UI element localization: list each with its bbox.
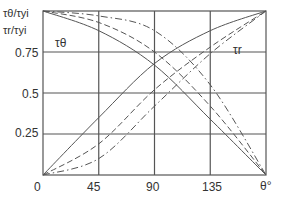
x-tick-0: 0 <box>34 181 41 193</box>
x-tick-90: 90 <box>146 181 159 193</box>
y-tick-0.75: 0.75 <box>15 47 38 59</box>
x-axis-label: θ° <box>260 180 271 192</box>
x-tick-45: 45 <box>87 181 100 193</box>
y-tick-0.5: 0.5 <box>22 88 39 100</box>
x-tick-135: 135 <box>202 181 222 193</box>
annotation-tau-r: τr <box>233 44 242 56</box>
y-tick-0.25: 0.25 <box>15 127 38 139</box>
y-axis-label-theta: τθ/τyi <box>3 8 29 19</box>
y-axis-label-r: τr/τyi <box>3 25 26 36</box>
chart-plot <box>0 0 281 200</box>
grid <box>43 11 266 175</box>
annotation-tau-theta: τθ <box>55 37 66 49</box>
